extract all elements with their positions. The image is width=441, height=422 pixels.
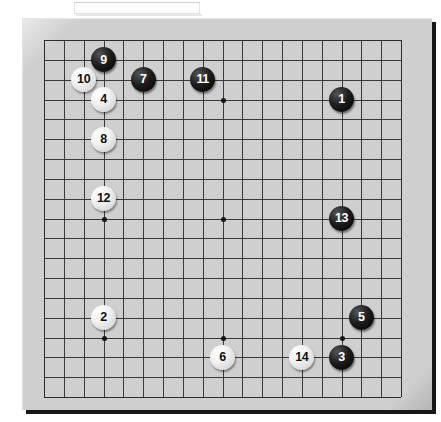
stone-black-9[interactable]: 9 — [91, 47, 116, 72]
go-board[interactable]: 1234567891011121314 — [22, 18, 432, 410]
top-strip-shadow — [76, 14, 202, 16]
stone-black-1[interactable]: 1 — [329, 87, 354, 112]
stone-white-8[interactable]: 8 — [91, 127, 116, 152]
stone-move-number: 1 — [338, 93, 345, 106]
star-point — [221, 336, 226, 341]
grid-line-vertical — [322, 40, 323, 397]
grid-line-horizontal — [44, 397, 401, 398]
top-strip-panel — [74, 2, 200, 14]
grid-line-vertical — [282, 40, 283, 397]
stone-move-number: 12 — [97, 192, 110, 205]
grid-line-vertical — [242, 40, 243, 397]
stone-move-number: 5 — [358, 311, 365, 324]
stone-black-7[interactable]: 7 — [131, 67, 156, 92]
grid-line-vertical — [302, 40, 303, 397]
stone-move-number: 13 — [335, 212, 348, 225]
board-grid: 1234567891011121314 — [44, 40, 401, 397]
stone-black-11[interactable]: 11 — [190, 67, 215, 92]
grid-line-horizontal — [44, 377, 401, 378]
grid-line-vertical — [361, 40, 362, 397]
star-point — [221, 217, 226, 222]
grid-line-vertical — [381, 40, 382, 397]
stone-move-number: 2 — [100, 311, 107, 324]
grid-line-horizontal — [44, 298, 401, 299]
star-point — [102, 336, 107, 341]
stone-black-5[interactable]: 5 — [349, 305, 374, 330]
grid-line-vertical — [401, 40, 402, 397]
stone-move-number: 8 — [100, 132, 107, 145]
stone-white-12[interactable]: 12 — [91, 186, 116, 211]
stone-black-3[interactable]: 3 — [329, 345, 354, 370]
stone-move-number: 14 — [295, 351, 308, 364]
stone-move-number: 4 — [100, 93, 107, 106]
star-point — [340, 336, 345, 341]
stone-black-13[interactable]: 13 — [329, 206, 354, 231]
star-point — [102, 217, 107, 222]
stone-white-10[interactable]: 10 — [71, 67, 96, 92]
stone-move-number: 6 — [219, 351, 226, 364]
star-point — [221, 98, 226, 103]
stone-white-14[interactable]: 14 — [289, 345, 314, 370]
stone-move-number: 7 — [140, 73, 147, 86]
stone-move-number: 11 — [196, 73, 208, 86]
stone-move-number: 3 — [338, 351, 345, 364]
stone-white-4[interactable]: 4 — [91, 87, 116, 112]
stone-white-2[interactable]: 2 — [91, 305, 116, 330]
grid-line-vertical — [262, 40, 263, 397]
stone-move-number: 10 — [77, 73, 90, 86]
grid-line-horizontal — [44, 278, 401, 279]
stone-move-number: 9 — [100, 53, 107, 66]
grid-line-horizontal — [44, 258, 401, 259]
grid-line-horizontal — [44, 238, 401, 239]
stone-white-6[interactable]: 6 — [210, 345, 235, 370]
